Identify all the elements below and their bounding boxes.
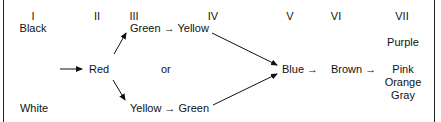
arrow-red-to-green bbox=[114, 33, 126, 54]
arrow-green-to-blue bbox=[213, 74, 277, 105]
arrow-layer bbox=[0, 0, 441, 122]
arrow-red-to-yellow bbox=[113, 80, 125, 100]
arrow-yellow-to-blue bbox=[212, 33, 277, 65]
